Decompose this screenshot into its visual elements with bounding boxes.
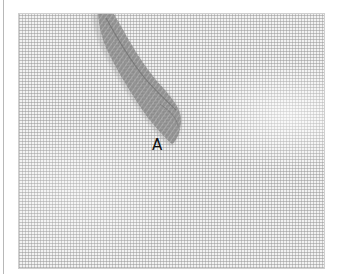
figure: A <box>0 0 340 274</box>
point-label-a: A <box>152 138 162 153</box>
twisted-thread <box>0 0 340 274</box>
